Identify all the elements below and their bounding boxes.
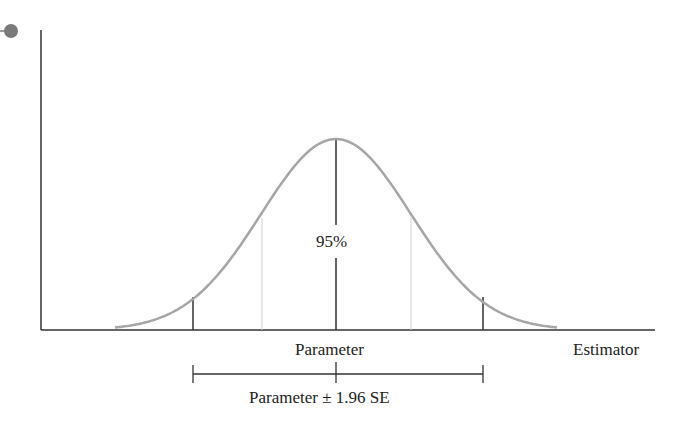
normal-distribution-diagram bbox=[0, 0, 685, 434]
interval-label: Parameter ± 1.96 SE bbox=[249, 388, 390, 408]
estimator-axis-label: Estimator bbox=[573, 340, 639, 360]
center-percentage-label: 95% bbox=[316, 232, 347, 252]
bullet-icon bbox=[4, 24, 18, 38]
parameter-label: Parameter bbox=[295, 340, 364, 360]
